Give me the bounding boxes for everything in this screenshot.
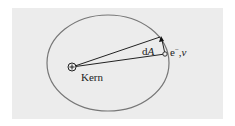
area-label: dA	[142, 45, 155, 57]
nucleus-label: Kern	[81, 71, 103, 83]
orbit-diagram: Kern dA e−,v	[0, 0, 235, 126]
electron-label: e−,v	[170, 46, 187, 58]
electron-icon	[163, 52, 167, 56]
orbit-ellipse	[47, 15, 169, 111]
